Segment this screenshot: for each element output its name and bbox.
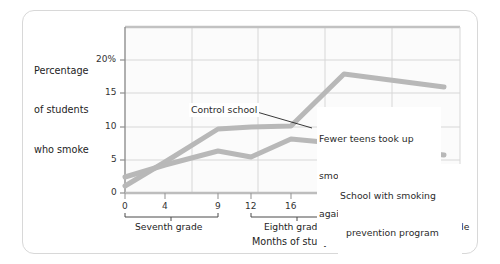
- x-tick-label-4: 4: [162, 201, 168, 212]
- bracket-seventh-grade: [125, 213, 218, 221]
- grade-label-eighth: Eighth grade: [264, 222, 323, 233]
- x-tick-label-12: 12: [245, 201, 256, 212]
- y-axis-title: Percentage of students who smoke: [34, 38, 89, 182]
- y-tick-label-15: 15: [105, 87, 116, 98]
- control-school-callout: Control school: [189, 103, 259, 117]
- y-tick-marks: [120, 60, 125, 193]
- x-tick-label-16: 16: [285, 201, 296, 212]
- y-tick-label-20: 20%: [96, 54, 116, 65]
- inoculated-callout-line-1: Fewer teens took up: [319, 133, 439, 145]
- prevention-program-callout: School with smoking prevention program: [338, 164, 462, 264]
- y-axis-title-line-2: of students: [34, 103, 89, 116]
- x-tick-label-9: 9: [215, 201, 221, 212]
- figure-container: Percentage of students who smoke 20% 15 …: [0, 0, 500, 264]
- x-tick-label-0: 0: [122, 201, 128, 212]
- y-tick-label-10: 10: [105, 121, 116, 132]
- y-axis-title-line-1: Percentage: [34, 64, 89, 77]
- y-tick-label-5: 5: [111, 154, 117, 165]
- y-axis-title-line-3: who smoke: [34, 143, 89, 156]
- grade-label-seventh: Seventh grade: [135, 222, 202, 233]
- y-tick-label-0: 0: [111, 187, 117, 198]
- prevention-program-callout-line-1: School with smoking: [340, 190, 460, 202]
- prevention-program-callout-line-2: prevention program: [340, 227, 460, 239]
